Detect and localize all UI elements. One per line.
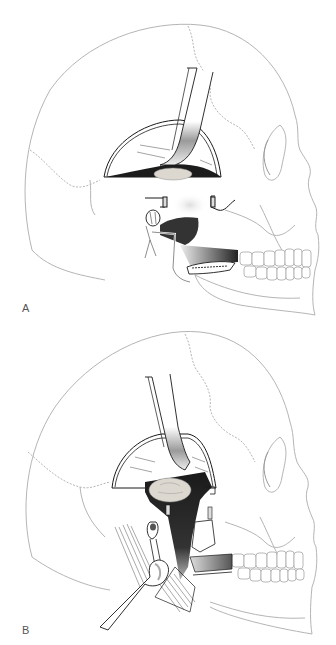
hand-retractor <box>100 560 169 630</box>
teeth <box>232 551 304 582</box>
panel-label-a: A <box>22 302 29 314</box>
craniotomy-flap <box>104 120 221 180</box>
mandibular-condyle <box>146 210 160 226</box>
panel-a: A <box>0 0 336 322</box>
panel-label-b: B <box>22 624 29 636</box>
temporomandibular-structures <box>145 210 238 282</box>
panel-b: B <box>0 322 336 645</box>
tumor-b <box>149 478 191 502</box>
teeth <box>240 249 311 280</box>
pterygoid-cavity <box>160 217 198 245</box>
jaw-region <box>190 520 232 575</box>
tumor-a <box>154 168 192 180</box>
panel-a-illustration <box>0 0 336 322</box>
panel-b-illustration <box>0 322 336 645</box>
